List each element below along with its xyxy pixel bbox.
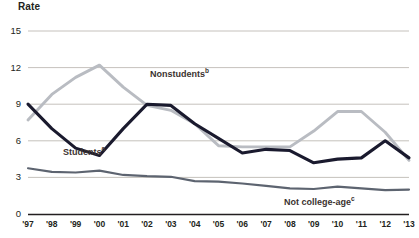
x-axis-tick-label: '06 bbox=[231, 219, 253, 229]
x-axis-tick-label: '09 bbox=[303, 219, 325, 229]
y-axis-tick-label: 12 bbox=[3, 62, 21, 73]
x-axis-tick-label: '03 bbox=[160, 219, 182, 229]
x-axis-tick-label: '11 bbox=[350, 219, 372, 229]
series-annotation-not-college-age: Not college-agec bbox=[284, 197, 355, 207]
x-axis-tick-label: '08 bbox=[279, 219, 301, 229]
x-axis-tick-label: '97 bbox=[17, 219, 39, 229]
x-axis-tick-label: '00 bbox=[88, 219, 110, 229]
x-axis-tick-label: '10 bbox=[327, 219, 349, 229]
y-axis-tick-label: 6 bbox=[3, 135, 21, 146]
x-axis-tick-label: '99 bbox=[65, 219, 87, 229]
x-axis-tick-label: '98 bbox=[41, 219, 63, 229]
x-axis-tick-label: '05 bbox=[208, 219, 230, 229]
y-axis-tick-label: 0 bbox=[3, 208, 21, 219]
x-axis-tick-label: '02 bbox=[136, 219, 158, 229]
x-axis-tick-label: '04 bbox=[184, 219, 206, 229]
x-axis-tick-label: '01 bbox=[112, 219, 134, 229]
y-axis-tick-label: 9 bbox=[3, 98, 21, 109]
x-axis-tick-label: '13 bbox=[398, 219, 419, 229]
x-axis-tick-label: '12 bbox=[374, 219, 396, 229]
x-axis-tick-label: '07 bbox=[255, 219, 277, 229]
series-annotation-students: Studentsa bbox=[63, 147, 105, 157]
series-annotation-nonstudents: Nonstudentsb bbox=[150, 69, 209, 79]
y-axis-tick-label: 3 bbox=[3, 171, 21, 182]
series-lines bbox=[28, 65, 409, 190]
y-axis-tick-label: 15 bbox=[3, 25, 21, 36]
series-line-not-college-age bbox=[28, 168, 409, 190]
